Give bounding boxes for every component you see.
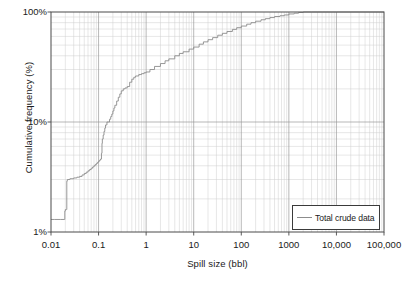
legend-line-swatch bbox=[297, 217, 312, 218]
legend-label: Total crude data bbox=[315, 213, 375, 223]
chart-figure: 1%10%100% 0.010.1110100100010,000100,000… bbox=[0, 0, 408, 282]
chart-legend: Total crude data bbox=[292, 205, 380, 230]
y-axis-title: Cumulative frequency (%) bbox=[23, 28, 34, 208]
y-tick-label: 100% bbox=[7, 7, 47, 17]
x-tick-label: 100,000 bbox=[354, 240, 408, 250]
y-tick-label: 1% bbox=[7, 227, 47, 237]
x-axis-title: Spill size (bbl) bbox=[51, 258, 384, 269]
